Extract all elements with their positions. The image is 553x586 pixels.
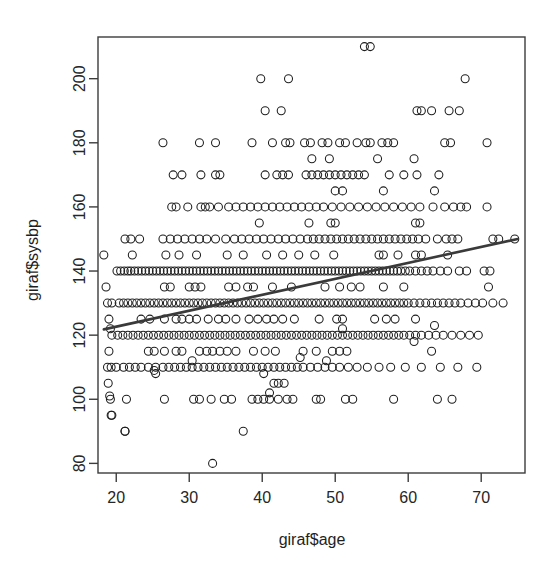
y-tick-label: 120 bbox=[72, 322, 89, 349]
x-tick-label: 30 bbox=[180, 489, 198, 506]
x-axis-title: giraf$age bbox=[279, 531, 346, 548]
x-tick-label: 40 bbox=[253, 489, 271, 506]
x-tick-label: 70 bbox=[472, 489, 490, 506]
scatter-plot-figure: 80100120140160180200 203040506070 giraf$… bbox=[0, 0, 553, 586]
plot-canvas: 80100120140160180200 203040506070 giraf$… bbox=[0, 0, 553, 586]
y-axis-title: giraf$sysbp bbox=[24, 219, 41, 301]
x-tick-label: 20 bbox=[107, 489, 125, 506]
y-tick-label: 200 bbox=[72, 65, 89, 92]
y-tick-label: 160 bbox=[72, 193, 89, 220]
y-tick-label: 80 bbox=[72, 454, 89, 472]
y-tick-label: 100 bbox=[72, 386, 89, 413]
x-tick-label: 50 bbox=[326, 489, 344, 506]
x-tick-label: 60 bbox=[399, 489, 417, 506]
y-tick-label: 180 bbox=[72, 129, 89, 156]
y-tick-label: 140 bbox=[72, 258, 89, 285]
